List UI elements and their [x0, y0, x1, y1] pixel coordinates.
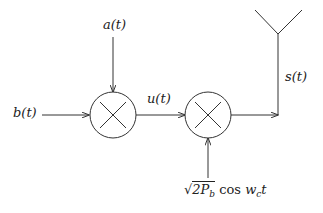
- radicand: 2Pb: [192, 181, 215, 197]
- a-signal-label: a(t): [103, 18, 126, 31]
- carrier-signal-label: √2Pb cos wct: [184, 183, 267, 199]
- u-signal-label: u(t): [147, 92, 171, 105]
- cos-function: cos: [219, 182, 241, 197]
- antenna-icon: [255, 10, 302, 34]
- multiplier-1: [90, 92, 136, 138]
- carrier-frequency: wct: [245, 182, 266, 197]
- b-signal-label: b(t): [13, 106, 37, 119]
- block-diagram: [0, 0, 323, 213]
- s-signal-label: s(t): [285, 70, 307, 83]
- multiplier-2: [185, 92, 231, 138]
